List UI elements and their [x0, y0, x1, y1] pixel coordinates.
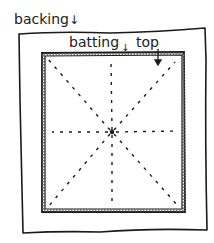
basting-line-sw [48, 134, 110, 207]
basting-line-e [116, 131, 179, 132]
backing-arrow-icon: ↓ [69, 13, 79, 27]
batting-label-text: batting [69, 34, 119, 50]
batting-label: batting↓ [69, 35, 129, 49]
center-knot [110, 130, 114, 134]
basting-line-n [111, 60, 112, 130]
top-label: top [136, 35, 159, 49]
basting-line-nw [47, 58, 110, 130]
backing-label: backing↓ [14, 12, 79, 26]
basting-line-se [114, 134, 178, 206]
backing-label-text: backing [14, 11, 69, 27]
basting-line-ne [114, 62, 175, 130]
batting-arrow-icon: ↓ [121, 42, 129, 53]
top-label-text: top [136, 34, 159, 50]
